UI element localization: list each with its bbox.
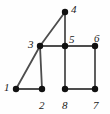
graph-node-label-6: 6 [94, 33, 100, 44]
graph-node-label-7: 7 [93, 100, 99, 111]
graph-node-2 [39, 86, 45, 92]
graph-node-8 [62, 86, 68, 92]
graph-node-label-2: 2 [39, 100, 45, 111]
graph-node-4 [62, 9, 68, 15]
graph-node-label-5: 5 [69, 34, 75, 45]
graph-node-label-1: 1 [4, 82, 10, 93]
graph-diagram: 12345678 [0, 0, 110, 114]
graph-node-1 [13, 86, 19, 92]
graph-node-label-3: 3 [28, 39, 34, 50]
edge-layer [16, 12, 95, 89]
graph-node-label-8: 8 [62, 100, 68, 111]
graph-edge-1-3 [16, 46, 40, 89]
node-layer [13, 9, 98, 92]
graph-canvas [0, 0, 110, 114]
graph-node-5 [62, 43, 68, 49]
graph-node-label-4: 4 [71, 4, 77, 15]
graph-node-7 [92, 86, 98, 92]
graph-edge-3-2 [40, 46, 42, 89]
graph-edge-3-4 [40, 12, 65, 46]
graph-node-3 [37, 43, 43, 49]
